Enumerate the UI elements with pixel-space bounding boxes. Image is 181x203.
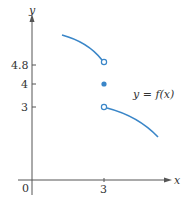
function-label: y = f(x) xyxy=(132,88,174,101)
x-axis-label: x xyxy=(174,174,181,187)
function-graph: y x 0 3 4.8 4 3 y = f(x) xyxy=(0,0,181,203)
filled-dot xyxy=(101,81,106,86)
right-branch-curve xyxy=(107,108,158,137)
y-tick-label-3: 3 xyxy=(21,101,28,114)
open-circle-lower xyxy=(101,104,106,109)
y-tick-label-4: 4 xyxy=(21,78,28,91)
x-axis-arrow-icon xyxy=(164,178,172,183)
x-tick-label-3: 3 xyxy=(100,183,107,196)
left-branch-curve xyxy=(62,35,102,60)
y-axis-label: y xyxy=(28,4,36,17)
origin-label: 0 xyxy=(22,182,29,195)
open-circle-upper xyxy=(101,59,106,64)
y-tick-label-4.8: 4.8 xyxy=(11,59,29,72)
